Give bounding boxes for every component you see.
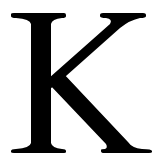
letter-k-svg [0, 0, 162, 159]
background [0, 0, 162, 159]
letter-k-glyph [0, 0, 162, 159]
